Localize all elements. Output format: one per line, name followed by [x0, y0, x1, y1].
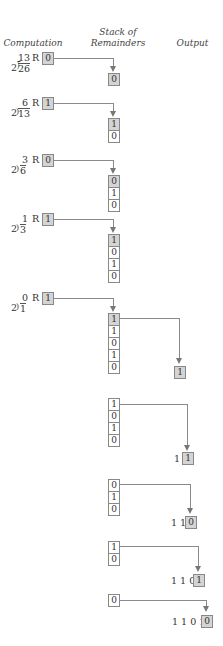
- header-stack-line2: Remainders: [85, 38, 151, 48]
- remainder-label: R: [32, 53, 39, 63]
- connector: [120, 318, 180, 319]
- arrow-down-icon: [176, 358, 182, 364]
- remainder-box: 0: [42, 154, 54, 167]
- remainder-label: R: [32, 293, 39, 303]
- connector: [198, 546, 199, 568]
- stack-box: 0: [108, 434, 120, 447]
- header-computation: Computation: [3, 38, 63, 48]
- arrow-down-icon: [110, 306, 116, 312]
- division-bracket-icon: ): [16, 164, 19, 174]
- arrow-down-icon: [184, 445, 190, 451]
- quotient: 0: [22, 293, 28, 303]
- output-box: 1: [182, 452, 194, 465]
- stack-box: 0: [108, 199, 120, 212]
- division-bracket-icon: ): [16, 223, 19, 233]
- output-prefix: 1: [174, 454, 180, 464]
- dividend: 1: [20, 303, 26, 314]
- quotient: 3: [22, 155, 28, 165]
- arrow-down-icon: [110, 168, 116, 174]
- header-output: Output: [170, 38, 215, 48]
- connector: [54, 298, 114, 299]
- dividend: 6: [20, 165, 26, 176]
- dividend: 3: [20, 224, 26, 235]
- arrow-down-icon: [187, 508, 193, 514]
- connector: [179, 318, 180, 360]
- output-box: 1: [193, 574, 205, 587]
- stack-box: 0: [108, 270, 120, 283]
- dividend: 13: [18, 108, 30, 119]
- connector: [120, 484, 190, 485]
- output-box: 1: [174, 366, 186, 379]
- stack-box: 0: [108, 73, 120, 86]
- arrow-down-icon: [203, 606, 209, 612]
- connector: [120, 600, 206, 601]
- header-stack-line1: Stack of: [88, 27, 148, 37]
- output-prefix: 1 1 0: [171, 576, 195, 586]
- quotient: 6: [22, 98, 28, 108]
- arrow-down-icon: [110, 111, 116, 117]
- stack-box: 0: [108, 594, 120, 607]
- stack-box: 0: [108, 553, 120, 566]
- connector: [54, 103, 114, 104]
- remainder-box: 1: [42, 213, 54, 226]
- stack-box: 0: [108, 130, 120, 143]
- connector: [120, 404, 188, 405]
- remainder-box: 1: [42, 292, 54, 305]
- stack-box: 0: [108, 503, 120, 516]
- connector: [187, 404, 188, 447]
- connector: [190, 484, 191, 510]
- dividend: 26: [18, 63, 30, 74]
- connector: [54, 160, 114, 161]
- remainder-label: R: [32, 155, 39, 165]
- arrow-down-icon: [110, 66, 116, 72]
- output-box: 0: [185, 516, 197, 529]
- remainder-box: 1: [42, 97, 54, 110]
- output-box: 0: [201, 615, 213, 628]
- connector: [54, 58, 114, 59]
- remainder-label: R: [32, 214, 39, 224]
- connector: [120, 546, 199, 547]
- arrow-down-icon: [195, 566, 201, 572]
- stack-box: 0: [108, 361, 120, 374]
- connector: [54, 219, 114, 220]
- division-bracket-icon: ): [16, 302, 19, 312]
- output-prefix: 1 1: [171, 518, 186, 528]
- quotient: 1: [22, 214, 28, 224]
- remainder-label: R: [32, 98, 39, 108]
- arrow-down-icon: [110, 227, 116, 233]
- remainder-box: 0: [42, 52, 54, 65]
